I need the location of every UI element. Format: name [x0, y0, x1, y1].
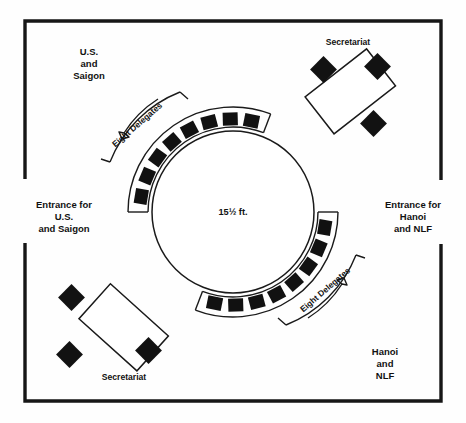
secretariat-top-right: Secretariat	[305, 37, 395, 137]
secretariat-top-right-label: Secretariat	[326, 37, 371, 47]
entrance-left-line-1: Entrance for	[36, 199, 92, 210]
entrance-left-line-2: U.S.	[55, 211, 73, 222]
entrance-right: Entrance for Hanoi and NLF	[385, 199, 441, 234]
diagram-canvas: Entrance for U.S. and Saigon Entrance fo…	[0, 0, 466, 423]
delegates-lower-right-chair-5	[267, 285, 286, 304]
delegates-upper-left-chair-5	[180, 121, 199, 140]
secretariat-bottom-left-chair-1	[58, 284, 85, 311]
round-table: 15½ ft.	[152, 131, 314, 293]
delegates-upper-left-bracket: Eight Delegates	[101, 92, 188, 162]
delegation-us-saigon-line-3: Saigon	[73, 70, 105, 81]
delegates-upper-left-rail-cap-2	[263, 114, 270, 133]
delegation-hanoi-nlf-line-1: Hanoi	[372, 346, 398, 357]
delegates-upper-left-label: Eight Delegates	[110, 100, 164, 149]
delegation-hanoi-nlf-label: Hanoi and NLF	[372, 346, 398, 381]
delegates-upper-left-chair-7	[223, 112, 238, 125]
delegates-lower-right-chair-3	[299, 257, 318, 277]
bracket-outer-upper-left	[101, 92, 188, 162]
secretariat-bottom-left: Secretariat	[56, 284, 168, 382]
delegation-us-saigon-line-1: U.S.	[80, 46, 98, 57]
delegates-upper-left-chair-3	[148, 148, 167, 168]
secretariat-bottom-left-chair-2	[56, 341, 83, 368]
round-table-dimension: 15½ ft.	[218, 207, 247, 217]
delegation-hanoi-nlf-line-3: NLF	[376, 370, 395, 381]
delegates-lower-right-chair-7	[228, 298, 243, 311]
entrance-left: Entrance for U.S. and Saigon	[36, 199, 92, 234]
entrance-left-line-3: and Saigon	[38, 223, 89, 234]
secretariat-bottom-left-label: Secretariat	[102, 372, 147, 382]
delegation-hanoi-nlf-line-2: and	[377, 358, 394, 369]
delegates-lower-right-chair-1	[317, 219, 332, 236]
delegation-us-saigon-label: U.S. and Saigon	[73, 46, 105, 81]
entrance-right-line-1: Entrance for	[385, 199, 441, 210]
delegates-lower-right-chair-8	[206, 295, 223, 311]
delegates-lower-right-chair-6	[248, 294, 266, 310]
delegates-upper-left-chair-8	[243, 113, 260, 129]
delegates-upper-left-chair-6	[200, 114, 218, 130]
entrance-right-line-3: and NLF	[394, 223, 432, 234]
entrance-right-line-2: Hanoi	[400, 211, 426, 222]
delegates-lower-right-rail-cap-2	[195, 291, 202, 310]
delegation-us-saigon-line-2: and	[81, 58, 98, 69]
delegates-lower-right-chair-4	[284, 272, 304, 292]
delegates-upper-left-chair-4	[162, 132, 182, 152]
secretariat-top-right-chair-3	[360, 110, 387, 137]
delegates-upper-left-chair-1	[134, 188, 149, 205]
secretariat-bottom-left-surface	[79, 284, 168, 371]
seating-diagram: Entrance for U.S. and Saigon Entrance fo…	[0, 0, 466, 423]
